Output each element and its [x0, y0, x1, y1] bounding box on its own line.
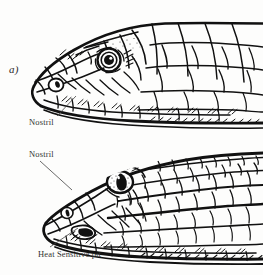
- panel-letter-a: a): [9, 64, 19, 75]
- annotation-label-nostril-b: Nostril: [29, 150, 54, 159]
- annotation-label-heat-sensitive-pit: Heat Sensitive pit: [38, 250, 101, 259]
- figure-root: a) Nostril: [0, 0, 263, 275]
- panel-a: a) Nostril: [0, 0, 263, 140]
- annotation-label-nostril-a: Nostril: [29, 118, 54, 127]
